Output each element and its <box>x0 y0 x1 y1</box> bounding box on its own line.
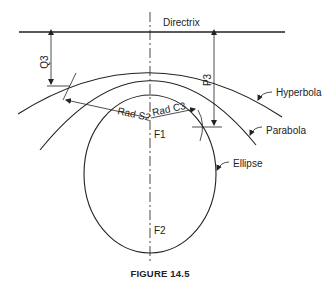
rad-s2-label: Rad S2 <box>117 105 152 123</box>
hyperbola-label: Hyperbola <box>276 87 322 98</box>
ellipse-leader <box>217 162 229 170</box>
figure-canvas: Directrix Q3 P3 Rad S2 Rad C3 F1 F2 Hype… <box>0 0 334 289</box>
parabola-leader <box>250 127 262 135</box>
conic-sections-diagram: Directrix Q3 P3 Rad S2 Rad C3 F1 F2 Hype… <box>0 0 334 289</box>
parabola-label: Parabola <box>266 125 306 136</box>
focus-f1-label: F1 <box>154 129 166 140</box>
directrix-label: Directrix <box>163 17 200 28</box>
ellipse-label: Ellipse <box>233 158 263 169</box>
p3-label: P3 <box>202 73 213 86</box>
rad-c3-label: Rad C3 <box>151 100 187 118</box>
hyperbola-leader <box>258 92 272 100</box>
q3-label: Q3 <box>39 55 50 69</box>
figure-caption: FIGURE 14.5 <box>130 268 190 279</box>
focus-f2-label: F2 <box>154 225 166 236</box>
